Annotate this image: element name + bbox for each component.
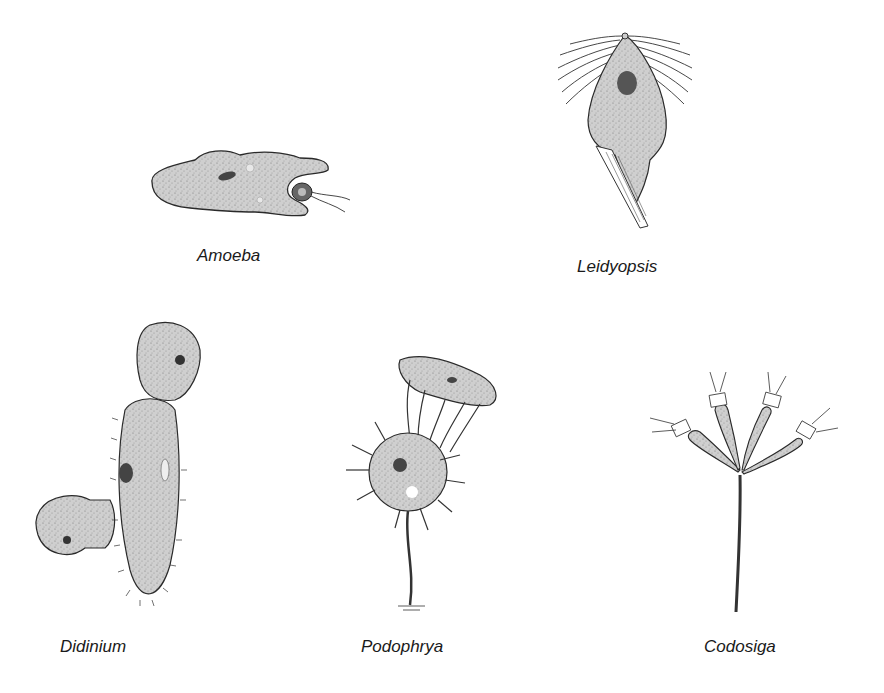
podophrya-illustration bbox=[346, 357, 496, 610]
codosiga-illustration bbox=[650, 372, 838, 612]
amoeba-illustration bbox=[152, 151, 350, 216]
didinium-illustration bbox=[36, 322, 200, 606]
label-podophrya: Podophrya bbox=[361, 637, 443, 657]
leidyopsis-illustration bbox=[558, 33, 692, 228]
illustrations bbox=[0, 0, 884, 693]
protist-figure: Amoeba Leidyopsis Didinium Podophrya Cod… bbox=[0, 0, 884, 693]
label-codosiga: Codosiga bbox=[704, 637, 776, 657]
label-didinium: Didinium bbox=[60, 637, 126, 657]
label-amoeba: Amoeba bbox=[197, 246, 260, 266]
label-leidyopsis: Leidyopsis bbox=[577, 257, 657, 277]
